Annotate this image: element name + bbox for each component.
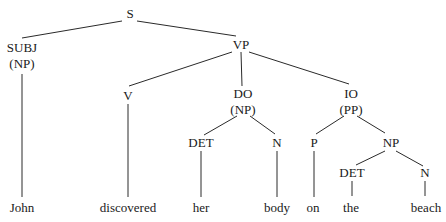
node-n-body: N bbox=[272, 135, 282, 150]
edge-vp-do bbox=[241, 52, 242, 86]
node-v: V bbox=[123, 88, 133, 103]
node-det-her: DET bbox=[188, 135, 213, 150]
node-io-category: (PP) bbox=[339, 102, 362, 117]
node-det-the: DET bbox=[339, 165, 364, 180]
edge-s-vp bbox=[137, 21, 236, 36]
node-vp: VP bbox=[233, 37, 250, 52]
edge-vp-io bbox=[249, 52, 349, 84]
word-discovered: discovered bbox=[100, 200, 157, 215]
edge-do-det bbox=[204, 116, 237, 135]
node-np: NP bbox=[383, 135, 400, 150]
word-the: the bbox=[343, 200, 359, 215]
word-her: her bbox=[193, 200, 210, 215]
edge-s-subj bbox=[22, 21, 122, 38]
word-beach: beach bbox=[411, 200, 442, 215]
node-s: S bbox=[126, 6, 133, 21]
edge-io-p bbox=[316, 116, 344, 134]
edge-io-np bbox=[357, 116, 385, 133]
node-io: IO bbox=[344, 86, 358, 101]
edge-np-n bbox=[396, 151, 423, 166]
node-subj-category: (NP) bbox=[9, 56, 34, 71]
tree-nodes: S SUBJ (NP) VP V DO (NP) IO (PP) DET N P… bbox=[7, 6, 430, 180]
edge-np-det bbox=[356, 151, 385, 165]
syntax-tree-diagram: S SUBJ (NP) VP V DO (NP) IO (PP) DET N P… bbox=[0, 0, 446, 222]
edge-vp-v bbox=[129, 52, 232, 86]
tree-leaves: John discovered her body on the beach bbox=[10, 200, 442, 215]
word-on: on bbox=[307, 200, 321, 215]
node-subj: SUBJ bbox=[7, 40, 37, 55]
node-p: P bbox=[310, 135, 317, 150]
word-body: body bbox=[264, 200, 291, 215]
node-do: DO bbox=[234, 86, 253, 101]
node-do-category: (NP) bbox=[230, 102, 255, 117]
node-n-beach: N bbox=[420, 165, 430, 180]
edge-do-n bbox=[250, 116, 275, 134]
word-john: John bbox=[10, 200, 35, 215]
